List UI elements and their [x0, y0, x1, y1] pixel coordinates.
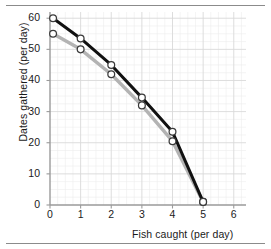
y-axis-title: Dates gathered (per day)	[17, 12, 29, 152]
x-axis-title: Fish caught (per day)	[132, 228, 233, 240]
data-series	[53, 18, 203, 202]
x-tick-label-4: 4	[163, 208, 183, 220]
chart-figure: 0123456 0102030405060 Fish caught (per d…	[0, 0, 271, 249]
y-tick-label-10: 10	[18, 167, 40, 179]
x-tick-label-0: 0	[40, 208, 60, 220]
x-tick-label-1: 1	[71, 208, 91, 220]
y-tick-label-0: 0	[18, 198, 40, 210]
x-tick-label-5: 5	[193, 208, 213, 220]
x-tick-label-3: 3	[132, 208, 152, 220]
x-tick-label-2: 2	[101, 208, 121, 220]
x-tick-label-6: 6	[224, 208, 244, 220]
